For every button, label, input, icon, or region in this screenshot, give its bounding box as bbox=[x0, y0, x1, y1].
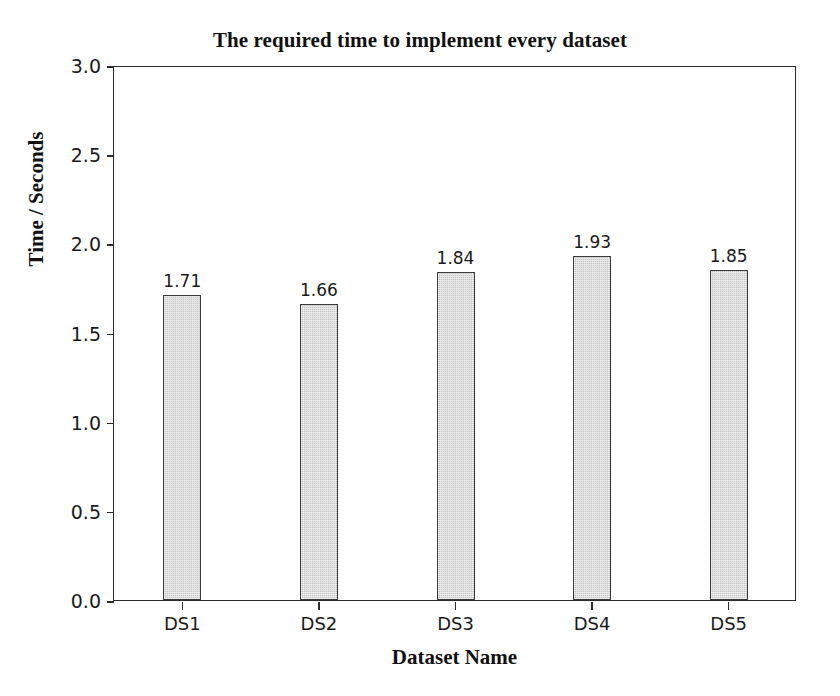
y-tick-label: 0.5 bbox=[71, 501, 101, 523]
y-tick-label: 3.0 bbox=[71, 55, 101, 77]
x-tick-mark bbox=[318, 602, 320, 610]
bar-group: 1.93 bbox=[573, 65, 611, 600]
y-tick-mark bbox=[107, 66, 114, 68]
x-tick-label: DS2 bbox=[301, 613, 338, 634]
x-tick-mark bbox=[728, 602, 730, 610]
y-tick-mark bbox=[107, 155, 114, 157]
y-axis-title: Time / Seconds bbox=[24, 223, 49, 267]
x-tick-mark bbox=[455, 602, 457, 610]
bar-chart-figure: The required time to implement every dat… bbox=[0, 0, 840, 696]
plot-area: 0.00.51.01.52.02.53.0 1.711.661.841.931.… bbox=[113, 66, 796, 601]
bar[interactable] bbox=[300, 304, 338, 600]
y-tick-mark bbox=[107, 601, 114, 603]
bars-layer: 1.711.661.841.931.85 bbox=[114, 67, 795, 600]
y-tick-mark bbox=[107, 244, 114, 246]
bar-group: 1.66 bbox=[300, 65, 338, 600]
x-tick-label: DS3 bbox=[437, 613, 474, 634]
bar[interactable] bbox=[437, 272, 475, 600]
bar-value-label: 1.93 bbox=[573, 232, 611, 252]
bar[interactable] bbox=[710, 270, 748, 600]
y-tick-mark bbox=[107, 334, 114, 336]
bar[interactable] bbox=[163, 295, 201, 600]
chart-title: The required time to implement every dat… bbox=[0, 28, 840, 53]
y-tick-label: 1.5 bbox=[71, 323, 101, 345]
bar-group: 1.71 bbox=[163, 65, 201, 600]
x-tick-label: DS5 bbox=[710, 613, 747, 634]
x-tick-label: DS1 bbox=[164, 613, 201, 634]
x-tick-label: DS4 bbox=[574, 613, 611, 634]
bar-group: 1.84 bbox=[437, 65, 475, 600]
bar-group: 1.85 bbox=[710, 65, 748, 600]
y-tick-label: 0.0 bbox=[71, 590, 101, 612]
bar-value-label: 1.71 bbox=[163, 271, 201, 291]
bar[interactable] bbox=[573, 256, 611, 600]
y-tick-mark bbox=[107, 512, 114, 514]
y-tick-mark bbox=[107, 423, 114, 425]
y-tick-label: 2.0 bbox=[71, 233, 101, 255]
x-tick-mark bbox=[591, 602, 593, 610]
x-tick-mark bbox=[182, 602, 184, 610]
x-axis-title: Dataset Name bbox=[113, 645, 796, 670]
bar-value-label: 1.84 bbox=[437, 248, 475, 268]
bar-value-label: 1.66 bbox=[300, 280, 338, 300]
bar-value-label: 1.85 bbox=[710, 246, 748, 266]
y-tick-label: 2.5 bbox=[71, 144, 101, 166]
y-tick-label: 1.0 bbox=[71, 412, 101, 434]
